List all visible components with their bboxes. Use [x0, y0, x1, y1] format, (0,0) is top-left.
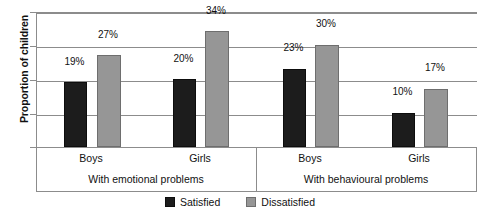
- category-label-emotional-girls: Girls: [189, 152, 211, 164]
- bar-value-emotional-boys-satisfied: 19%: [64, 56, 84, 67]
- bar-chart: Proportion of children 19% 27% 20% 34% 2…: [0, 0, 480, 215]
- legend: Satisfied Dissatisfied: [0, 196, 480, 208]
- bar-emotional-boys-satisfied: [64, 82, 87, 147]
- bar-value-emotional-girls-dissatisfied: 34%: [206, 5, 226, 16]
- bar-behavioural-girls-dissatisfied: [424, 89, 448, 147]
- bar-emotional-girls-satisfied: [173, 79, 196, 147]
- y-axis-title: Proportion of children: [18, 0, 30, 139]
- category-label-behavioural-boys: Boys: [298, 152, 321, 164]
- gridline-30: [37, 47, 477, 48]
- bar-behavioural-boys-dissatisfied: [315, 45, 339, 147]
- bar-value-behavioural-girls-satisfied: 10%: [392, 86, 412, 97]
- bar-value-emotional-girls-satisfied: 20%: [173, 53, 193, 64]
- category-label-behavioural-girls: Girls: [408, 152, 430, 164]
- legend-swatch-dissatisfied-icon: [246, 197, 256, 207]
- group-label-emotional: With emotional problems: [88, 173, 204, 185]
- legend-item-satisfied: Satisfied: [165, 196, 220, 208]
- bar-value-emotional-boys-dissatisfied: 27%: [98, 29, 118, 40]
- bar-behavioural-girls-satisfied: [392, 113, 415, 147]
- legend-label-dissatisfied: Dissatisfied: [261, 196, 315, 208]
- bar-value-behavioural-boys-satisfied: 23%: [283, 42, 303, 53]
- bar-emotional-boys-dissatisfied: [97, 55, 121, 147]
- bar-behavioural-boys-satisfied: [283, 69, 306, 147]
- category-label-emotional-boys: Boys: [79, 152, 102, 164]
- legend-item-dissatisfied: Dissatisfied: [246, 196, 315, 208]
- bar-value-behavioural-girls-dissatisfied: 17%: [425, 62, 445, 73]
- bar-value-behavioural-boys-dissatisfied: 30%: [316, 18, 336, 29]
- gridline-40: [37, 13, 477, 14]
- group-label-behavioural: With behavioural problems: [304, 173, 428, 185]
- legend-swatch-satisfied-icon: [165, 197, 175, 207]
- group-separator: [256, 148, 257, 192]
- bar-emotional-girls-dissatisfied: [205, 31, 229, 147]
- legend-label-satisfied: Satisfied: [180, 196, 220, 208]
- category-axis-right-edge: [476, 148, 477, 192]
